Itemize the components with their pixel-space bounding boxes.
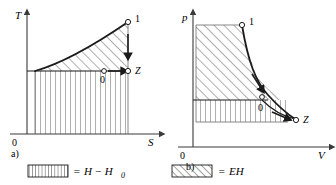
panel-a-point-0-label: 0 — [100, 74, 105, 85]
panel-a-point-z-label: Z — [135, 65, 141, 76]
panel-a-point-z-marker — [125, 68, 130, 73]
panel-a-region-eh — [35, 22, 128, 71]
panel-b-y-axis-label: p — [181, 11, 188, 23]
panel-a-origin-label: 0 — [12, 137, 17, 148]
panel-b-origin-label: 0 — [180, 150, 185, 161]
panel-a-point-1-marker — [125, 19, 130, 24]
panel-b-point-1-label: 1 — [249, 16, 254, 27]
panel-b-point-1-marker — [239, 22, 244, 27]
panel-a-y-axis-label: T — [15, 9, 22, 21]
panel-a-point-1-label: 1 — [135, 13, 140, 24]
panel-a-panel-label: a) — [11, 148, 19, 160]
legend-expression-eh: EH — [228, 165, 245, 177]
panel-a-region-h-minus-h0 — [35, 71, 128, 134]
figure-canvas: T S 1 0 Z 0 a) — [0, 0, 336, 185]
panel-a: T S 1 0 Z 0 a) — [10, 9, 160, 160]
panel-a-x-axis-label: S — [148, 136, 154, 148]
legend-expression-h-minus-h0: H − H — [83, 165, 114, 177]
thermodynamic-diagram-figure: T S 1 0 Z 0 a) — [0, 0, 336, 185]
panel-a-point-0-marker — [102, 69, 107, 74]
panel-b-region-eh — [196, 25, 288, 100]
panel-b-point-0-marker — [260, 95, 265, 100]
legend-swatch-diagonal-hatch — [172, 165, 212, 177]
legend-swatch-vertical-hatch — [28, 165, 68, 177]
legend-equals-1: = — [73, 165, 80, 177]
panel-b-x-axis-label: V — [318, 149, 326, 161]
legend-equals-2: = — [218, 165, 225, 177]
panel-b-point-0-label: 0 — [258, 102, 263, 113]
panel-b: p V 1 0 Z 0 b) — [178, 11, 330, 173]
panel-b-region-h-minus-h0 — [196, 100, 288, 122]
panel-b-point-z-label: Z — [303, 114, 309, 125]
legend-item-eh: = EH — [172, 165, 245, 177]
legend-subscript-zero: 0 — [121, 171, 125, 180]
legend: = H − H 0 = EH — [28, 165, 245, 180]
legend-item-h-minus-h0: = H − H 0 — [28, 165, 125, 180]
panel-b-point-z-marker — [293, 117, 298, 122]
